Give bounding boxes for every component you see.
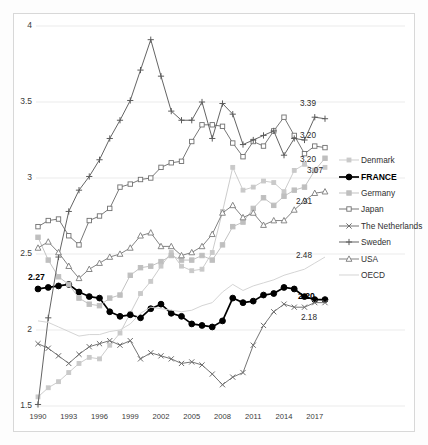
- legend-label: Denmark: [360, 155, 395, 165]
- data-point: [190, 269, 194, 273]
- legend-item-france[interactable]: FRANCE: [338, 168, 426, 184]
- data-point: [97, 303, 101, 307]
- data-point: [271, 291, 277, 297]
- series-line: [38, 117, 325, 245]
- data-point: [138, 177, 142, 181]
- small-square-marker-icon: [338, 154, 360, 166]
- data-point: [200, 123, 204, 127]
- data-point: [45, 285, 51, 291]
- legend-item-japan[interactable]: Japan: [338, 201, 426, 217]
- data-point: [179, 258, 183, 262]
- data-point: [107, 338, 112, 343]
- data-point: [189, 249, 195, 254]
- data-point: [128, 273, 132, 277]
- data-point: [117, 117, 123, 123]
- data-point: [230, 295, 236, 301]
- x-tick-label: 1993: [54, 412, 84, 421]
- data-point: [159, 264, 163, 268]
- data-point: [210, 251, 214, 255]
- legend-label: OECD: [360, 270, 385, 280]
- data-point: [128, 182, 132, 186]
- data-point: [323, 156, 327, 160]
- data-point: [117, 313, 123, 319]
- data-point: [56, 275, 60, 279]
- data-point: [210, 123, 214, 127]
- data-point: [66, 208, 72, 214]
- data-point: [210, 371, 215, 376]
- legend-item-the-netherlands[interactable]: The Netherlands: [338, 218, 426, 234]
- data-point: [67, 371, 71, 375]
- data-point: [180, 264, 184, 268]
- legend-item-oecd[interactable]: OECD: [338, 267, 426, 283]
- x-tick-label: 2017: [300, 412, 330, 421]
- data-point: [36, 224, 40, 228]
- data-point: [35, 401, 41, 407]
- y-tick-label: 3: [6, 172, 32, 182]
- data-point: [97, 295, 103, 301]
- data-point: [271, 309, 276, 314]
- data-point: [148, 37, 154, 43]
- data-point: [220, 243, 224, 247]
- data-point: [262, 179, 266, 183]
- data-point: [323, 165, 327, 169]
- none-marker-icon: [338, 269, 360, 281]
- data-point: [282, 194, 286, 198]
- data-point: [260, 132, 266, 138]
- data-point: [231, 165, 235, 169]
- data-point: [87, 355, 91, 359]
- data-point: [108, 206, 112, 210]
- data-point: [45, 315, 51, 321]
- data-point: [169, 161, 173, 165]
- data-point: [230, 202, 236, 207]
- data-point: [138, 356, 143, 361]
- open-square-marker-icon: [338, 203, 360, 215]
- data-point: [272, 181, 276, 185]
- end-value-label: 2.20: [298, 291, 315, 301]
- data-point: [312, 114, 318, 120]
- data-point: [56, 283, 62, 289]
- data-point: [179, 313, 185, 319]
- data-point: [241, 220, 245, 224]
- data-point: [46, 386, 50, 390]
- legend-item-germany[interactable]: Germany: [338, 185, 426, 201]
- data-point: [66, 361, 71, 366]
- data-point: [159, 259, 163, 263]
- data-point: [190, 139, 194, 143]
- data-point: [127, 312, 133, 318]
- data-point: [241, 188, 245, 192]
- data-point: [77, 362, 81, 366]
- data-point: [240, 370, 245, 375]
- data-point: [281, 152, 287, 158]
- series-lines: [35, 37, 328, 408]
- data-point: [159, 165, 163, 169]
- data-point: [272, 203, 276, 207]
- data-point: [199, 362, 204, 367]
- data-point: [77, 243, 81, 247]
- data-point: [127, 97, 133, 103]
- data-point: [107, 135, 113, 141]
- data-point: [76, 289, 82, 295]
- data-point: [322, 116, 328, 122]
- data-point: [149, 264, 153, 268]
- data-point: [251, 185, 255, 189]
- data-point: [169, 253, 173, 257]
- legend-label: Sweden: [360, 237, 391, 247]
- data-point: [77, 296, 81, 300]
- data-point: [35, 286, 41, 292]
- data-point: [323, 145, 327, 149]
- data-point: [149, 176, 153, 180]
- legend-label: The Netherlands: [360, 221, 422, 231]
- data-point: [250, 298, 256, 304]
- data-point: [169, 356, 174, 361]
- data-point: [322, 297, 328, 303]
- data-point: [87, 302, 91, 306]
- legend-item-sweden[interactable]: Sweden: [338, 234, 426, 250]
- data-point: [128, 338, 133, 343]
- data-point: [148, 230, 154, 235]
- data-point: [56, 353, 61, 358]
- data-point: [57, 380, 61, 384]
- legend-item-usa[interactable]: USA: [338, 250, 426, 266]
- legend-item-denmark[interactable]: Denmark: [338, 152, 426, 168]
- data-point: [96, 157, 102, 163]
- legend-label: FRANCE: [360, 172, 397, 182]
